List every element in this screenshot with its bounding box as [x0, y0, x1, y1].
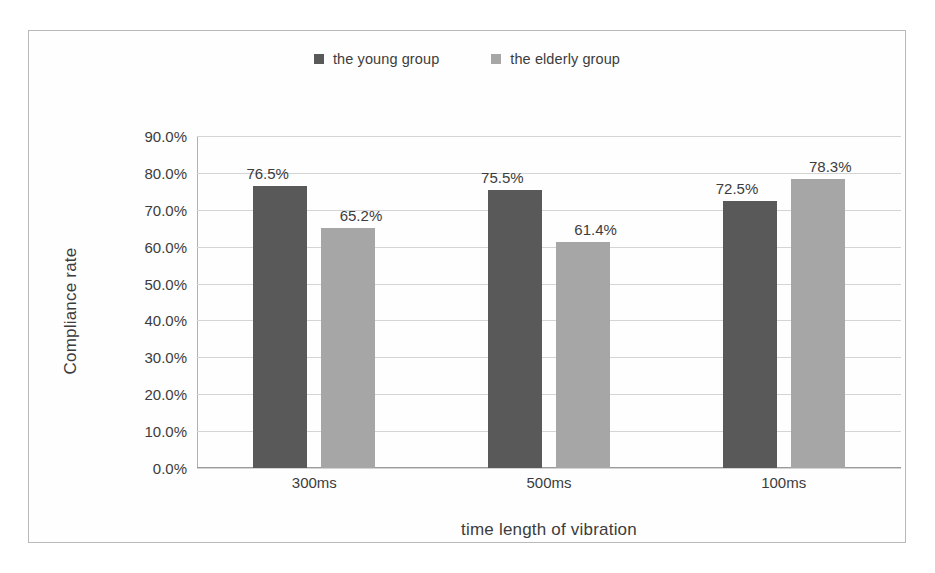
y-axis-tick-label: 80.0% — [144, 164, 187, 181]
bar-value-label: 76.5% — [246, 165, 289, 182]
bar-rect[interactable] — [723, 201, 777, 468]
bar-rect[interactable] — [488, 190, 542, 469]
plot-area: 90.0%80.0%70.0%60.0%50.0%40.0%30.0%20.0%… — [197, 136, 901, 468]
bar-group: 75.5%61.4% — [432, 136, 667, 468]
legend-entry-young-group: the young group — [314, 51, 439, 67]
bar-value-label: 78.3% — [809, 158, 852, 175]
bar-rect[interactable] — [556, 242, 610, 468]
y-axis-tick-label: 50.0% — [144, 275, 187, 292]
bar-young-group[interactable]: 75.5% — [488, 136, 542, 468]
x-axis-tick-label: 300ms — [197, 474, 432, 491]
gridline — [197, 468, 901, 469]
y-axis-tick-label: 20.0% — [144, 386, 187, 403]
bar-young-group[interactable]: 72.5% — [723, 136, 777, 468]
y-axis-tick-label: 40.0% — [144, 312, 187, 329]
bar-value-label: 75.5% — [481, 169, 524, 186]
legend-swatch-elderly-group — [491, 54, 501, 64]
y-axis-tick-label: 10.0% — [144, 423, 187, 440]
bar-elderly-group[interactable]: 78.3% — [791, 136, 845, 468]
bar-value-label: 72.5% — [716, 180, 759, 197]
legend-swatch-young-group — [314, 54, 324, 64]
bar-group: 72.5%78.3% — [666, 136, 901, 468]
bar-young-group[interactable]: 76.5% — [253, 136, 307, 468]
bar-elderly-group[interactable]: 61.4% — [556, 136, 610, 468]
chart-legend: the young group the elderly group — [29, 51, 905, 67]
y-axis-tick-label: 90.0% — [144, 128, 187, 145]
bar-rect[interactable] — [253, 186, 307, 468]
y-axis-title: Compliance rate — [59, 186, 83, 436]
legend-label-elderly-group: the elderly group — [510, 51, 620, 67]
bar-value-label: 65.2% — [340, 207, 383, 224]
y-axis-tick-label: 70.0% — [144, 201, 187, 218]
bar-elderly-group[interactable]: 65.2% — [321, 136, 375, 468]
y-axis-tick-label: 30.0% — [144, 349, 187, 366]
legend-entry-elderly-group: the elderly group — [491, 51, 620, 67]
legend-label-young-group: the young group — [333, 51, 439, 67]
y-axis-tick-label: 60.0% — [144, 238, 187, 255]
y-axis-title-text: Compliance rate — [61, 248, 81, 375]
chart-frame: the young group the elderly group Compli… — [28, 30, 906, 543]
bar-group: 76.5%65.2% — [197, 136, 432, 468]
bar-rect[interactable] — [321, 228, 375, 469]
x-axis-tick-label: 500ms — [432, 474, 667, 491]
y-axis-tick-label: 0.0% — [153, 460, 187, 477]
bar-value-label: 61.4% — [574, 221, 617, 238]
x-axis-tick-label: 100ms — [666, 474, 901, 491]
bar-rect[interactable] — [791, 179, 845, 468]
x-axis-title: time length of vibration — [197, 520, 901, 540]
